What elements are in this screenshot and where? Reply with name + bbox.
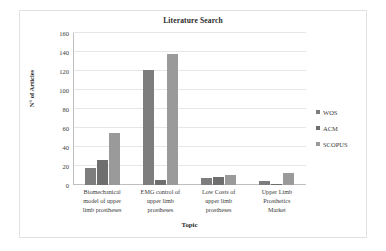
y-axis-tick-labels: 020406080100120140160: [45, 33, 69, 185]
y-axis-tick-label: 140: [47, 49, 69, 56]
x-axis-tick-label-line: Market: [248, 205, 306, 214]
x-axis-tick-label-line: upper limb: [190, 196, 248, 205]
bar[interactable]: [259, 181, 270, 185]
legend-swatch-icon: [316, 142, 320, 146]
bar[interactable]: [201, 178, 212, 185]
y-axis-tick-label: 60: [47, 125, 69, 132]
x-axis-tick-label-line: model of upper: [73, 196, 131, 205]
bar[interactable]: [85, 168, 96, 185]
y-axis-title: N° of Articles: [28, 54, 35, 124]
legend-label: ACM: [323, 125, 338, 132]
bar[interactable]: [167, 54, 178, 185]
chart-title: Literature Search: [20, 16, 366, 25]
x-axis-tick-labels: Biomechanicalmodel of upperlimb prosthes…: [73, 187, 306, 221]
x-axis-tick-label-line: Prosthetics: [248, 196, 306, 205]
legend-swatch-icon: [316, 126, 320, 130]
bar-group: [73, 33, 131, 185]
x-axis-tick-label-line: limb prostheses: [73, 205, 131, 214]
bar[interactable]: [155, 180, 166, 185]
legend-label: WOS: [323, 109, 337, 116]
x-axis-tick-label-line: prostheses: [190, 205, 248, 214]
y-axis-tick-label: 40: [47, 144, 69, 151]
legend-entry-acm[interactable]: ACM: [316, 120, 366, 136]
bar[interactable]: [143, 70, 154, 185]
x-axis-title: Topic: [73, 221, 306, 228]
legend-entry-scopus[interactable]: SCOPUS: [316, 136, 366, 152]
plot-area: [73, 33, 306, 185]
y-axis-tick-label: 120: [47, 68, 69, 75]
x-axis-tick-label: Upper LimbProstheticsMarket: [248, 187, 306, 215]
x-axis-tick-label-line: prostheses: [131, 205, 189, 214]
x-axis-tick-label: Biomechanicalmodel of upperlimb prosthes…: [73, 187, 131, 215]
bar[interactable]: [225, 175, 236, 185]
bar-group: [248, 33, 306, 185]
bar[interactable]: [283, 173, 294, 185]
bar[interactable]: [271, 184, 282, 185]
legend-label: SCOPUS: [323, 141, 348, 148]
legend-entry-wos[interactable]: WOS: [316, 104, 366, 120]
bar[interactable]: [109, 133, 120, 185]
y-axis-tick-label: 100: [47, 87, 69, 94]
x-axis-tick-label-line: Low Costs of: [190, 187, 248, 196]
y-axis-tick-label: 80: [47, 106, 69, 113]
y-axis-tick-label: 160: [47, 30, 69, 37]
x-axis-tick-label: EMG control ofupper limbprostheses: [131, 187, 189, 215]
bar[interactable]: [97, 160, 108, 185]
chart-legend: WOSACMSCOPUS: [316, 104, 366, 152]
y-axis-tick-label: 0: [47, 182, 69, 189]
x-axis-tick-label-line: upper limb: [131, 196, 189, 205]
chart-figure: Literature Search N° of Articles 0204060…: [19, 10, 367, 238]
x-axis-tick-label-line: Upper Limb: [248, 187, 306, 196]
x-axis-tick-label-line: EMG control of: [131, 187, 189, 196]
bar-group: [190, 33, 248, 185]
bar-group: [131, 33, 189, 185]
x-axis-tick-label-line: Biomechanical: [73, 187, 131, 196]
y-axis-tick-label: 20: [47, 163, 69, 170]
bar[interactable]: [213, 177, 224, 185]
x-axis-tick-label: Low Costs ofupper limbprostheses: [190, 187, 248, 215]
legend-swatch-icon: [316, 110, 320, 114]
